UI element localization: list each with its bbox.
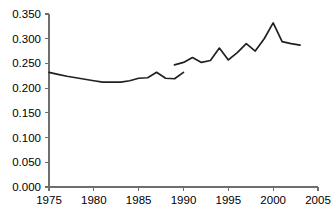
x-tick-label: 1975	[36, 194, 62, 206]
y-tick-label: 0.350	[12, 8, 41, 20]
y-tick-label: 0.050	[12, 156, 41, 168]
y-axis: 0.0000.0500.1000.1500.2000.2500.3000.350	[12, 8, 49, 193]
data-line-series-2	[175, 23, 301, 65]
x-tick-label: 1980	[81, 194, 107, 206]
y-tick-label: 0.300	[12, 33, 41, 45]
y-tick-label: 0.000	[12, 181, 41, 193]
x-tick-label: 1985	[126, 194, 152, 206]
y-tick-label: 0.100	[12, 132, 41, 144]
line-chart: 0.0000.0500.1000.1500.2000.2500.3000.350…	[0, 0, 332, 217]
y-tick-label: 0.200	[12, 82, 41, 94]
x-axis: 1975198019851990199520002005	[36, 187, 331, 206]
y-tick-label: 0.250	[12, 57, 41, 69]
x-tick-label: 1990	[171, 194, 197, 206]
data-line-series-1	[49, 72, 184, 82]
data-series-group	[49, 23, 300, 82]
x-tick-label: 1995	[216, 194, 242, 206]
x-tick-label: 2000	[260, 194, 286, 206]
y-tick-label: 0.150	[12, 107, 41, 119]
x-tick-label: 2005	[305, 194, 331, 206]
chart-canvas: 0.0000.0500.1000.1500.2000.2500.3000.350…	[0, 0, 332, 217]
